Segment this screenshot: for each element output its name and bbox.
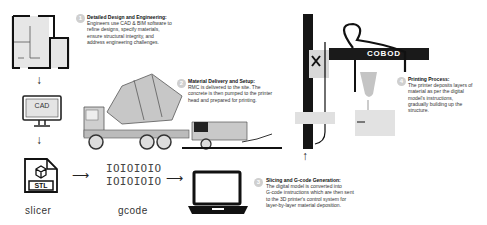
arrow-right-icon: ⟶ xyxy=(72,169,89,181)
step-3-line: layer-by-layer material deposition. xyxy=(266,202,376,208)
arrow-down-icon: ↓ xyxy=(36,74,42,86)
step-1-description: Detailed Design and Engineering: Enginee… xyxy=(87,14,182,45)
floor-plan-illustration xyxy=(10,14,72,72)
binary-code-line: IOIOIOIO xyxy=(106,163,161,174)
arrow-down-icon: ↓ xyxy=(36,134,42,146)
stl-file-icon: STL xyxy=(22,157,60,195)
gcode-label: gcode xyxy=(118,205,148,216)
stl-label: STL xyxy=(29,182,53,189)
step-3-description: Slicing and G-code Generation: The digit… xyxy=(266,177,376,208)
binary-code-line: IOIOIOIO xyxy=(106,176,161,187)
arrow-up-icon: ↑ xyxy=(302,150,308,162)
arrow-right-icon: ⟶ xyxy=(166,172,183,184)
cad-label: CAD xyxy=(22,102,62,109)
step-2-badge: 2 xyxy=(177,79,186,88)
cad-monitor-icon: CAD xyxy=(22,95,62,130)
step-4-badge: 4 xyxy=(397,77,406,86)
step-1-badge: 1 xyxy=(76,14,85,23)
slicer-label: slicer xyxy=(25,205,51,216)
step-2-line: head and prepared for printing. xyxy=(188,97,298,103)
laptop-icon xyxy=(186,170,250,216)
step-4-line: structure. xyxy=(408,107,487,113)
step-3-badge: 3 xyxy=(254,178,263,187)
printer-brand-label: COBOD xyxy=(367,49,401,58)
step-1-line: address engineering challenges. xyxy=(87,39,182,45)
step-2-description: Material Delivery and Setup: RMC is deli… xyxy=(188,78,298,103)
step-4-description: Printing Process: The printer deposits l… xyxy=(408,76,487,113)
